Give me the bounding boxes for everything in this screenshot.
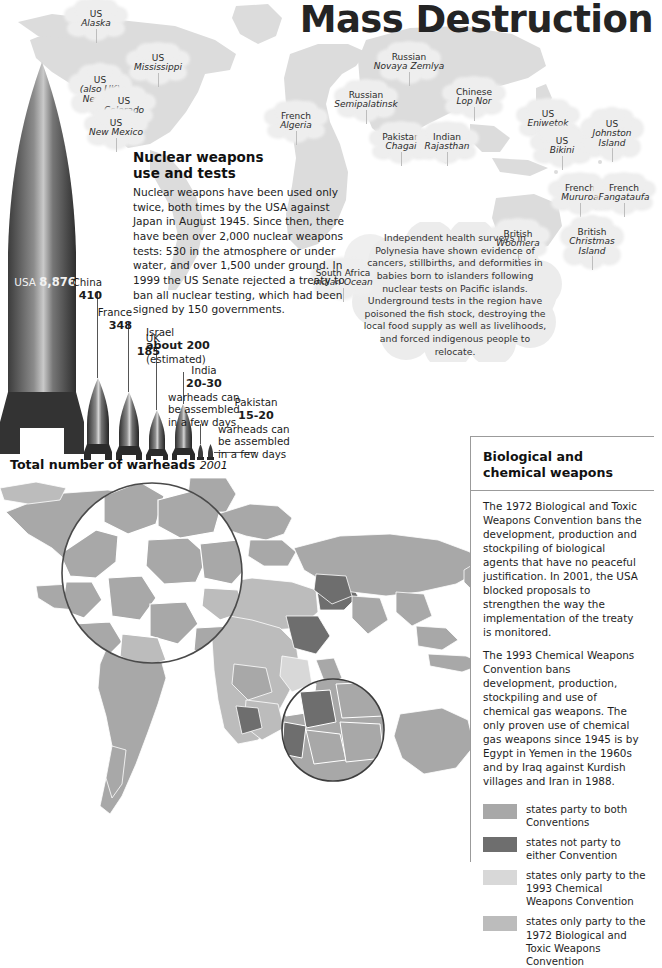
nuclear-weapons-textblock: Nuclear weapons use and tests Nuclear we…	[133, 150, 348, 317]
cloud-stem	[474, 107, 475, 121]
legend-label: states only party to the 1993 Chemical W…	[526, 869, 646, 908]
site-place: Colorado	[85, 106, 163, 115]
warhead-label-pakistan: Pakistan 15-20 warheads can be assembled…	[218, 396, 294, 461]
site-place: Alaska	[57, 19, 135, 28]
polynesia-note: Independent health surveys in Polynesia …	[362, 232, 548, 358]
cloud-stem	[447, 152, 448, 166]
site-place: Fangataufa	[585, 193, 662, 202]
site-place: Lop Nor	[435, 97, 513, 106]
site-place: Rajasthan	[408, 142, 486, 151]
cloud-stem	[116, 138, 117, 152]
magnifier-middle-east	[282, 679, 384, 781]
test-site-label: USMississippi	[119, 54, 197, 73]
panel-heading: Biological and chemical weapons	[471, 437, 654, 491]
legend-row: states only party to the 1972 Biological…	[483, 915, 646, 967]
panel-paragraph-2: The 1993 Chemical Weapons Convention ban…	[471, 640, 654, 789]
usa-country: USA	[14, 276, 36, 288]
chart-caption: Total number of warheads 2001	[10, 457, 228, 472]
legend-row: states only party to the 1993 Chemical W…	[483, 869, 646, 908]
cloud-stem	[592, 256, 593, 270]
conventions-world-map	[0, 478, 490, 869]
warhead-bar-china	[84, 378, 112, 460]
site-place-line2: Island	[553, 247, 631, 256]
warhead-bar-france	[116, 392, 142, 460]
test-site-label: RussianSemipalatinsk	[327, 91, 405, 110]
site-place: Algeria	[257, 121, 335, 130]
page-title: Mass Destruction	[296, 0, 659, 44]
site-place-line2: Island	[573, 139, 651, 148]
leader-line-china	[97, 292, 98, 378]
nuclear-heading: Nuclear weapons use and tests	[133, 150, 348, 182]
map-legend: states party to both Conventionsstates n…	[471, 789, 654, 968]
test-site-label: RussianNovaya Zemlya	[370, 53, 448, 72]
legend-swatch	[483, 804, 517, 819]
legend-label: states not party to either Convention	[526, 836, 646, 862]
nuclear-body: Nuclear weapons have been used only twic…	[133, 185, 348, 317]
warhead-bar-uk	[146, 410, 168, 460]
legend-label: states party to both Conventions	[526, 803, 646, 829]
cloud-stem	[158, 73, 159, 87]
site-place: Novaya Zemlya	[370, 62, 448, 71]
site-place: Semipalatinsk	[327, 100, 405, 109]
warhead-label-china: China 410	[54, 276, 102, 303]
legend-row: states party to both Conventions	[483, 803, 646, 829]
test-site-label: USNew Mexico	[77, 119, 155, 138]
panel-paragraph-1: The 1972 Biological and Toxic Weapons Co…	[471, 491, 654, 640]
cloud-stem	[612, 148, 613, 162]
cloud-stem	[96, 29, 97, 43]
test-site-label: IndianRajasthan	[408, 133, 486, 152]
cloud-stem	[624, 203, 625, 217]
cloud-stem	[366, 110, 367, 124]
test-site-label: BritishChristmasIsland	[553, 228, 631, 256]
legend-swatch	[483, 870, 517, 885]
test-site-label: FrenchFangataufa	[585, 184, 662, 203]
test-site-label: USAlaska	[57, 10, 135, 29]
legend-row: states not party to either Convention	[483, 836, 646, 862]
legend-swatch	[483, 916, 517, 931]
bio-chem-panel: Biological and chemical weapons The 1972…	[470, 436, 654, 862]
test-site-label: FrenchAlgeria	[257, 112, 335, 131]
test-site-label: ChineseLop Nor	[435, 88, 513, 107]
cloud-stem	[409, 72, 410, 86]
site-place: New Mexico	[77, 128, 155, 137]
cloud-stem	[562, 156, 563, 170]
warhead-label-france: France 348	[78, 306, 132, 333]
test-site-label: USColorado	[85, 97, 163, 116]
cloud-stem	[580, 203, 581, 217]
warhead-label-israel: Israel about 200 (estimated)	[146, 326, 224, 365]
cloud-stem	[296, 131, 297, 145]
test-site-label: USJohnstonIsland	[573, 120, 651, 148]
cloud-stem	[401, 152, 402, 166]
legend-label: states only party to the 1972 Biological…	[526, 915, 646, 967]
legend-swatch	[483, 837, 517, 852]
site-place: Mississippi	[119, 63, 197, 72]
